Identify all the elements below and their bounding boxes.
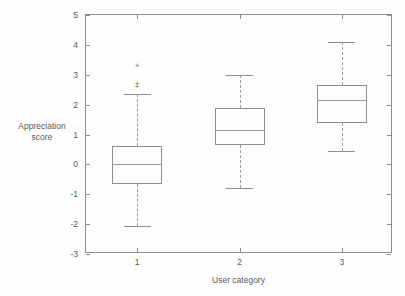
box-iqr-rect xyxy=(317,85,367,122)
x-axis-tick-label: 3 xyxy=(339,258,344,267)
y-axis-tick-right xyxy=(387,254,391,255)
x-axis-tick-label: 2 xyxy=(237,258,242,267)
plot-area: 543210-1-2-3123 +++ xyxy=(85,14,392,253)
y-axis-title-line1: Appreciation xyxy=(4,121,80,132)
box-plot-figure: Appreciation score User category 543210-… xyxy=(0,0,405,296)
y-axis-title-line2: score xyxy=(4,132,80,143)
whisker-lower xyxy=(342,123,343,151)
median-line xyxy=(317,100,367,101)
y-axis-tick-label: 0 xyxy=(73,160,78,169)
whisker-cap-lower xyxy=(328,151,355,152)
whisker-upper xyxy=(342,42,343,85)
y-axis-tick-label: -3 xyxy=(70,250,78,259)
y-axis-title: Appreciation score xyxy=(4,121,80,143)
y-axis-tick-label: 5 xyxy=(73,11,78,20)
y-axis-tick-label: -1 xyxy=(70,190,78,199)
y-axis-tick-label: 3 xyxy=(73,71,78,80)
x-axis-tick-label: 1 xyxy=(135,258,140,267)
y-axis-tick-label: -2 xyxy=(70,220,78,229)
y-axis-tick xyxy=(86,254,90,255)
box-plot-series: +++ xyxy=(86,15,391,252)
y-axis-tick-label: 4 xyxy=(73,41,78,50)
y-axis-tick-label: 2 xyxy=(73,100,78,109)
x-axis-title: User category xyxy=(85,276,392,285)
y-axis-tick-label: 1 xyxy=(73,130,78,139)
box-plot-box-3 xyxy=(86,15,391,252)
whisker-cap-upper xyxy=(328,42,355,43)
